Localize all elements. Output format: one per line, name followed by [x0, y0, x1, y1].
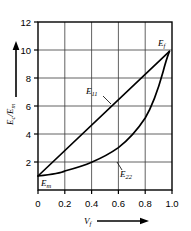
ytick-label-2: 2: [26, 157, 31, 168]
ytick-label-4: 4: [26, 129, 31, 140]
ytick-label-6: 6: [26, 101, 31, 112]
y-axis-arrow-head: [13, 41, 20, 50]
annotation-e11-sub: 11: [92, 90, 98, 97]
xtick-label-0: 0: [35, 198, 40, 209]
x-axis-tick-labels: 0 0.2 0.4 0.6 0.8 1.0: [35, 198, 178, 209]
annotation-e22-sub: 22: [126, 173, 133, 180]
xtick-label-06: 0.6: [112, 198, 125, 209]
annotation-em-sub: m: [47, 182, 52, 189]
y-axis-arrow-icon: [13, 41, 20, 97]
ytick-label-12: 12: [20, 17, 31, 28]
ytick-label-8: 8: [26, 73, 31, 84]
xtick-label-02: 0.2: [58, 198, 71, 209]
x-axis-arrow-icon: [97, 218, 149, 225]
xtick-label-10: 1.0: [165, 198, 178, 209]
y-axis-label: Ec/Em: [5, 104, 16, 126]
y-axis-label-den-sub: m: [9, 104, 16, 109]
xtick-label-04: 0.4: [85, 198, 98, 209]
ytick-label-10: 10: [20, 45, 31, 56]
x-axis-arrow-head: [140, 218, 149, 225]
x-axis-label: Vf: [84, 216, 93, 227]
chart-svg: 12 10 8 6 4 2 0 0.2 0.4 0.6 0.8 1.0: [0, 0, 191, 231]
x-axis-label-sub: f: [90, 220, 93, 227]
chart-figure: 12 10 8 6 4 2 0 0.2 0.4 0.6 0.8 1.0: [0, 0, 191, 231]
xtick-label-08: 0.8: [139, 198, 152, 209]
y-axis-tick-labels: 12 10 8 6 4 2: [20, 17, 31, 168]
